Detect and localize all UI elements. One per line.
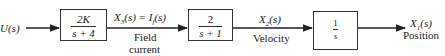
fraction-bar — [333, 29, 338, 30]
block-1-denominator: s + 4 — [61, 28, 106, 39]
signal-x2-label: X2(s) — [259, 13, 281, 30]
signal-x3-caption-line1: Field — [134, 31, 157, 43]
signal-x3-label: X3(s) = If(s) — [114, 11, 166, 28]
block-3-denominator: s — [314, 31, 357, 42]
block-2-denominator: s + 1 — [189, 28, 232, 39]
input-signal-label: U(s) — [0, 22, 20, 34]
signal-x3-caption-line2: current — [129, 43, 160, 55]
block-2-numerator: 2 — [189, 14, 232, 25]
signal-x2-caption: Velocity — [253, 32, 290, 44]
block-3-numerator: 1 — [314, 18, 357, 29]
signal-x1-caption: Position — [403, 29, 439, 41]
block-1-numerator: 2K — [61, 14, 106, 25]
transfer-block-1: 2K s + 4 — [60, 9, 107, 41]
transfer-block-2: 2 s + 1 — [188, 9, 233, 41]
transfer-block-3: 1 s — [313, 11, 358, 50]
